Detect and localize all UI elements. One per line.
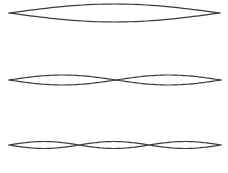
third-harmonic-wave	[9, 142, 221, 149]
wave-upper-envelope	[9, 75, 221, 80]
wave-lower-envelope	[9, 80, 221, 85]
second-harmonic-wave	[9, 75, 221, 85]
wave-upper-envelope	[9, 4, 220, 13]
standing-waves-diagram	[0, 0, 228, 173]
fundamental-mode-wave	[9, 4, 220, 22]
wave-lower-envelope	[9, 145, 221, 149]
wave-lower-envelope	[9, 13, 220, 22]
wave-upper-envelope	[9, 142, 221, 146]
